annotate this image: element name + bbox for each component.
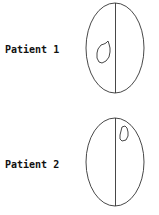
brain-diagrams <box>0 0 159 215</box>
patient-1-head-outline <box>86 3 144 93</box>
head-ellipse-1 <box>86 3 144 93</box>
patient-2-head-outline <box>86 118 144 206</box>
head-ellipse-2 <box>86 118 144 206</box>
lesion-2-icon <box>120 126 128 141</box>
lesion-1-icon <box>97 41 110 63</box>
